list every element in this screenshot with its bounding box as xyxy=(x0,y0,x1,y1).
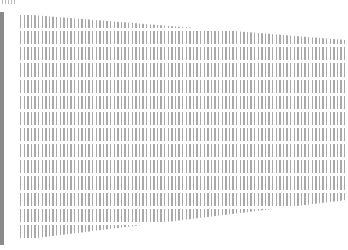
corner-marks xyxy=(2,0,16,4)
text-line xyxy=(20,160,346,173)
text-line xyxy=(20,80,346,93)
text-line xyxy=(20,176,346,189)
text-line xyxy=(20,112,346,125)
text-line xyxy=(20,47,346,60)
text-line xyxy=(20,15,346,28)
distorted-text-page xyxy=(20,14,346,240)
text-line xyxy=(20,96,346,109)
text-line xyxy=(20,144,346,157)
text-line xyxy=(20,63,346,76)
text-line xyxy=(20,209,346,222)
text-line xyxy=(20,225,346,238)
page-edge-bar xyxy=(0,12,4,245)
text-line xyxy=(20,128,346,141)
text-line xyxy=(20,31,346,44)
text-line xyxy=(20,193,346,206)
